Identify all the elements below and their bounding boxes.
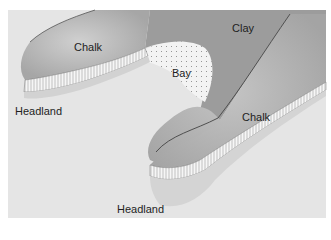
label-chalk-left: Chalk — [74, 42, 102, 53]
label-headland-right: Headland — [117, 204, 164, 215]
label-headland-left: Headland — [15, 106, 62, 117]
label-bay: Bay — [172, 68, 191, 79]
label-chalk-right: Chalk — [242, 112, 270, 123]
label-clay: Clay — [232, 23, 254, 34]
